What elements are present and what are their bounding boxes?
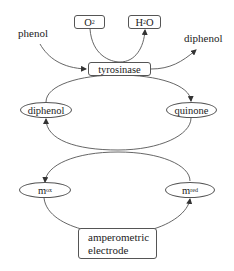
arrow-tyrosinase-to-diphenol [151,50,196,69]
h2o-main: H [135,17,143,28]
tyrosinase-box: tyrosinase [88,62,151,76]
arrow-electrode-to-mred [150,199,190,230]
diphenol-node: diphenol [20,102,72,118]
m-red-sub: red [190,187,198,193]
o2-main: O [84,17,92,28]
amperometric-electrode-box: amperometric electrode [78,228,157,259]
h2o-suffix: O [146,17,154,28]
m-ox-node: mox [19,182,71,198]
m-ox-sub: ox [46,187,52,193]
arrow-diphenol-to-quinone [46,75,191,102]
diphenol-product-label: diphenol [184,32,223,44]
tyrosinase-label: tyrosinase [98,64,141,75]
phenol-label: phenol [18,27,48,39]
arrow-phenol-to-tyrosinase [40,44,86,69]
h2o-box: H2O [128,15,161,29]
quinone-node: quinone [166,102,217,118]
diphenol-node-label: diphenol [28,105,65,116]
quinone-node-label: quinone [175,105,209,116]
m-red-main: m [182,185,190,196]
electrode-line1: amperometric [88,231,149,244]
arrow-mox-to-electrode [44,198,85,230]
arrow-mred-to-mox [45,152,190,182]
o2-sub: 2 [92,19,95,25]
o2-box: O2 [74,15,105,29]
m-red-node: mred [165,182,215,198]
arrow-o2-to-h2o [90,29,145,62]
m-ox-main: m [38,185,46,196]
arrow-quinone-to-diphenol [46,118,191,150]
electrode-line2: electrode [88,244,128,257]
